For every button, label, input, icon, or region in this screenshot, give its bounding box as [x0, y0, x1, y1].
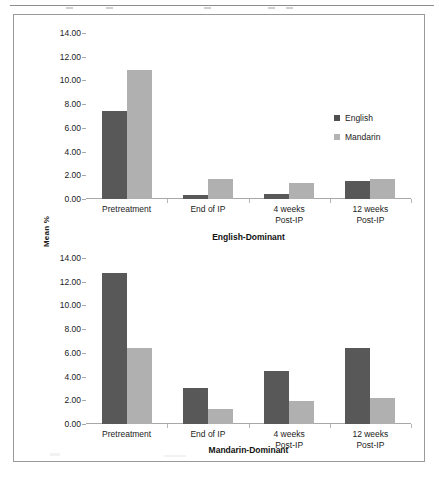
bar-group: 4 weeksPost-IP [249, 258, 330, 424]
y-axis-tick-mark [82, 199, 86, 200]
chart-legend: English Mandarin [334, 113, 380, 151]
x-axis-category-label-line: Post-IP [274, 215, 305, 226]
x-axis-end-tick [411, 199, 412, 203]
x-axis-category-label: Pretreatment [102, 204, 151, 215]
x-axis-category-label-line: Pretreatment [102, 429, 151, 440]
bar-english [183, 388, 208, 424]
x-axis-category-label-line: End of IP [190, 429, 225, 440]
y-axis-tick-label: 4.00 [41, 147, 81, 157]
y-axis-tick-label: 0.00 [41, 194, 81, 204]
x-axis-group-separator [167, 199, 168, 203]
x-axis-category-label-line: Post-IP [352, 215, 388, 226]
x-axis-group-separator [330, 199, 331, 203]
bar-english [183, 195, 208, 199]
y-axis-tick-label: 8.00 [41, 99, 81, 109]
x-axis-category-label-line: 4 weeks [274, 204, 305, 215]
x-axis-category-label: End of IP [190, 204, 225, 215]
bar-mandarin [370, 179, 395, 199]
page-header-rule [10, 5, 434, 6]
bar-mandarin [370, 398, 395, 424]
legend-item-mandarin: Mandarin [334, 132, 380, 142]
bar-english [345, 181, 370, 199]
y-axis-tick-label: 12.00 [41, 52, 81, 62]
y-axis-tick-label: 4.00 [41, 372, 81, 382]
bar-english [345, 348, 370, 424]
bar-mandarin [208, 409, 233, 424]
legend-item-english: English [334, 113, 380, 123]
bar-mandarin [208, 179, 233, 199]
bar-mandarin [127, 348, 152, 424]
x-axis-group-separator [167, 424, 168, 428]
y-axis-tick-label: 0.00 [41, 419, 81, 429]
x-axis-category-label: End of IP [190, 429, 225, 440]
chart-panel-english-dominant: 14.0012.0010.008.006.004.002.000.00Pretr… [14, 21, 426, 245]
y-axis-tick-label: 2.00 [41, 395, 81, 405]
bar-group: End of IP [167, 258, 248, 424]
x-axis-group-separator [249, 199, 250, 203]
bar-english [102, 111, 127, 199]
y-axis-tick-label: 8.00 [41, 324, 81, 334]
y-axis-tick-mark [82, 424, 86, 425]
x-axis-category-label-line: 12 weeks [352, 429, 388, 440]
bar-group: 12 weeksPost-IP [330, 258, 411, 424]
x-axis-category-label-line: End of IP [190, 204, 225, 215]
bar-english [264, 194, 289, 199]
x-axis-category-label: Pretreatment [102, 429, 151, 440]
y-axis-tick-label: 2.00 [41, 170, 81, 180]
x-axis-category-label-line: Pretreatment [102, 204, 151, 215]
x-axis-category-label-line: 12 weeks [352, 204, 388, 215]
bar-group: Pretreatment [86, 258, 167, 424]
square-swatch-icon [334, 115, 340, 121]
square-swatch-icon [334, 134, 340, 140]
plot-area-mandarin-dominant: 14.0012.0010.008.006.004.002.000.00Pretr… [86, 258, 411, 424]
y-axis-tick-label: 14.00 [41, 253, 81, 263]
x-axis-category-label: 12 weeksPost-IP [352, 204, 388, 225]
bar-mandarin [127, 70, 152, 199]
legend-label-mandarin: Mandarin [345, 132, 380, 142]
y-axis-tick-label: 12.00 [41, 277, 81, 287]
y-axis-tick-label: 14.00 [41, 28, 81, 38]
bar-english [102, 273, 127, 424]
chart-title-mandarin-dominant: Mandarin-Dominant [86, 445, 411, 455]
chart-title-english-dominant: English-Dominant [86, 232, 411, 242]
x-axis-category-label: 4 weeksPost-IP [274, 204, 305, 225]
y-axis-tick-label: 6.00 [41, 123, 81, 133]
x-axis-end-tick [411, 424, 412, 428]
legend-label-english: English [345, 113, 373, 123]
x-axis-group-separator [330, 424, 331, 428]
y-axis-tick-label: 6.00 [41, 348, 81, 358]
bar-mandarin [289, 183, 314, 199]
x-axis-category-label-line: 4 weeks [274, 429, 305, 440]
bar-group: End of IP [167, 33, 248, 199]
figure-frame: Mean % 14.0012.0010.008.006.004.002.000.… [13, 14, 425, 462]
y-axis-tick-label: 10.00 [41, 75, 81, 85]
bar-english [264, 371, 289, 424]
bar-group: 4 weeksPost-IP [249, 33, 330, 199]
bar-group: Pretreatment [86, 33, 167, 199]
chart-panel-mandarin-dominant: 14.0012.0010.008.006.004.002.000.00Pretr… [14, 248, 426, 462]
bar-mandarin [289, 401, 314, 424]
x-axis-group-separator [249, 424, 250, 428]
y-axis-tick-label: 10.00 [41, 300, 81, 310]
